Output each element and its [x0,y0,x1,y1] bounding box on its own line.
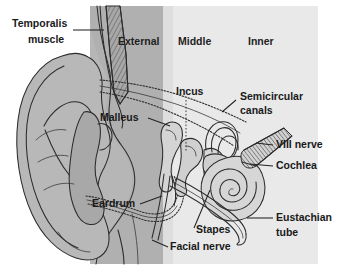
label-eustachian-tube-line2: tube [276,226,298,238]
label-semicircular-canals-line2: canals [240,104,273,116]
label-viii-nerve: VIII nerve [276,138,323,150]
label-stapes: Stapes [196,223,231,235]
label-temporalis-muscle-line1: Temporalis [12,17,67,29]
label-inner-region: Inner [248,35,274,47]
label-temporalis-muscle-line2: muscle [28,33,64,45]
label-incus: Incus [176,85,204,97]
label-external-region: External [118,35,160,47]
label-malleus: Malleus [100,111,139,123]
label-semicircular-canals-line1: Semicircular [240,90,303,102]
pinna-outer-ear [17,54,112,260]
label-eustachian-tube-line1: Eustachian [276,211,332,223]
ear-anatomy-diagram: Temporalis muscle External Middle Inner … [0,0,339,279]
label-facial-nerve: Facial nerve [170,240,231,252]
label-eardrum: Eardrum [92,197,135,209]
label-cochlea: Cochlea [276,159,317,171]
label-middle-region: Middle [178,35,211,47]
